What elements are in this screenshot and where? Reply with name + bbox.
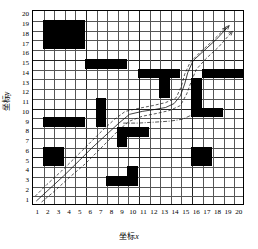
gridline-vertical [86,11,87,204]
obstacle-cell [191,147,212,167]
y-tick-label: 4 [16,167,29,174]
gridline-horizontal [33,99,243,100]
y-tick-label: 12 [16,89,29,96]
gridline-vertical [224,11,225,204]
y-tick-label: 1 [16,197,29,204]
obstacle-cell [43,147,64,167]
obstacle-cell [43,117,85,127]
obstacle-cell [191,78,202,107]
obstacle-cell [138,69,170,79]
y-tick-label: 2 [16,187,29,194]
obstacle-cell [202,69,244,79]
gridline-vertical [150,11,151,204]
y-tick-label: 11 [16,99,29,106]
y-tick-label: 3 [16,177,29,184]
gridline-horizontal [33,167,243,168]
y-tick-label: 13 [16,80,29,87]
x-tick-label: 20 [232,209,246,216]
gridline-horizontal [33,60,243,61]
y-axis-title: 坐标y [0,92,11,112]
obstacle-cell [85,59,127,69]
y-tick-label: 8 [16,128,29,135]
y-tick-label: 9 [16,119,29,126]
gridline-vertical [181,11,182,204]
obstacle-cell [96,98,107,118]
gridline-vertical [171,11,172,204]
y-tick-label: 17 [16,41,29,48]
y-tick-label: 14 [16,70,29,77]
y-tick-label: 10 [16,109,29,116]
y-tick-label: 18 [16,31,29,38]
gridline-horizontal [33,50,243,51]
obstacle-cell [127,127,148,137]
obstacle-cell [117,127,128,147]
obstacle-cell [191,108,223,118]
y-tick-label: 6 [16,148,29,155]
gridline-vertical [160,11,161,204]
y-tick-label: 15 [16,60,29,67]
gridline-horizontal [33,89,243,90]
obstacle-cell [159,78,170,98]
y-tick-label: 7 [16,138,29,145]
grid-map-plot [32,10,244,205]
gridline-horizontal [33,138,243,139]
gridline-horizontal [33,79,243,80]
obstacle-cell [106,176,138,186]
obstacle-cell [170,69,181,79]
y-tick-label: 20 [16,11,29,18]
obstacle-cell [127,166,138,176]
obstacle-cell [43,20,85,49]
gridline-horizontal [33,177,243,178]
y-tick-label: 19 [16,21,29,28]
y-tick-label: 5 [16,158,29,165]
x-axis-title: 坐标x [0,230,258,241]
gridline-vertical [139,11,140,204]
gridline-vertical [234,11,235,204]
y-tick-label: 16 [16,50,29,57]
obstacle-cell [96,117,107,127]
gridline-horizontal [33,196,243,197]
figure-root: 1234567891011121314151617181920 12345678… [0,0,258,249]
gridline-horizontal [33,187,243,188]
